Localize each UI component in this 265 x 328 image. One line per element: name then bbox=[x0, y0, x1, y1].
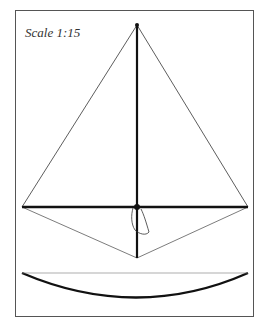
upper-left-edge bbox=[22, 25, 137, 207]
bow-spar bbox=[22, 273, 248, 298]
upper-right-edge bbox=[137, 25, 248, 207]
lower-left-edge bbox=[22, 207, 137, 258]
center-joint bbox=[134, 204, 140, 210]
kite-diagram bbox=[0, 0, 265, 328]
lower-right-edge bbox=[137, 207, 248, 258]
top-joint bbox=[135, 23, 139, 27]
bridle-string bbox=[132, 208, 149, 234]
